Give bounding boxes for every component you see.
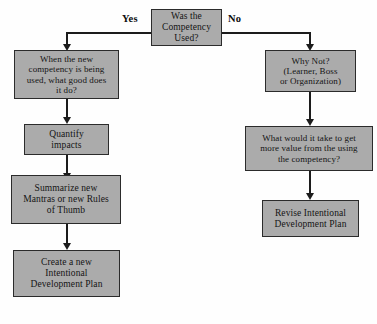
- connector-decision-to-no-horizontal: [221, 32, 311, 34]
- connector-yes-step2-to-step3: [66, 155, 68, 175]
- node-no-step1-why-not[interactable]: Why Not? (Learner, Boss or Organization): [265, 50, 356, 92]
- node-yes-step3-summarize-mantras[interactable]: Summarize new Mantras or new Rules of Th…: [11, 175, 121, 224]
- node-yes-step1-what-good[interactable]: When the new competency is being used, w…: [14, 50, 119, 99]
- edge-label-no: No: [228, 13, 241, 24]
- connector-no-step1-to-step2: [309, 92, 311, 120]
- decision-node-competency-used[interactable]: Was the Competency Used?: [151, 9, 222, 46]
- node-no-step2-more-value[interactable]: What would it take to get more value fro…: [245, 126, 373, 171]
- arrow-yes-step3-to-step4: [63, 243, 71, 250]
- flowchart-canvas: Was the Competency Used? Yes No When the…: [0, 0, 377, 324]
- edge-label-yes: Yes: [122, 13, 138, 24]
- connector-no-step2-to-step3: [309, 171, 311, 195]
- connector-yes-step1-to-step2: [66, 99, 68, 119]
- arrow-yes-step1-to-step2: [63, 117, 71, 124]
- node-yes-step4-create-idp[interactable]: Create a new Intentional Development Pla…: [13, 250, 120, 297]
- arrow-no-step2-to-step3: [306, 193, 314, 200]
- arrow-no-step1-to-step2: [306, 119, 314, 126]
- connector-decision-to-yes-horizontal: [67, 32, 152, 34]
- node-no-step3-revise-idp[interactable]: Revise Intentional Development Plan: [262, 200, 359, 237]
- node-yes-step2-quantify-impacts[interactable]: Quantify impacts: [24, 124, 109, 155]
